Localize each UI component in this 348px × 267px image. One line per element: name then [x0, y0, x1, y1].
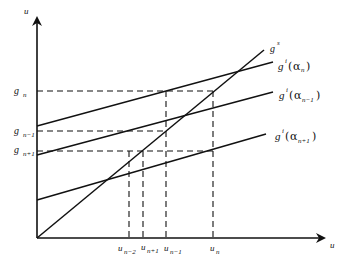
svg-text:n: n — [301, 66, 305, 74]
svg-text:u: u — [141, 242, 146, 252]
label-gs: g s — [270, 39, 280, 54]
svg-text:n−1: n−1 — [23, 131, 35, 139]
svg-text:α: α — [294, 89, 302, 102]
svg-text:n: n — [216, 248, 220, 256]
curve-gi-alpha-n-1 — [37, 92, 273, 155]
svg-text:n−1: n−1 — [170, 248, 182, 256]
svg-text:n: n — [23, 91, 27, 99]
diagram: u u g n g n−1 g n+1 u n−2 u n+1 u — [0, 0, 348, 267]
svg-text:i: i — [285, 57, 287, 65]
x-axis-label: u — [330, 240, 335, 250]
label-gi-alpha-n+1: g i ( α n+1 ) — [275, 127, 316, 145]
svg-text:i: i — [282, 127, 284, 135]
svg-text:(: ( — [285, 130, 289, 143]
x-tick-un-2: u n−2 — [118, 243, 136, 256]
svg-text:g: g — [275, 130, 281, 142]
svg-text:u: u — [164, 243, 169, 253]
svg-text:n−2: n−2 — [124, 248, 136, 256]
svg-text:s: s — [277, 39, 280, 47]
svg-text:u: u — [118, 243, 123, 253]
label-gi-alpha-n-1: g i ( α n−1 ) — [279, 86, 320, 104]
x-tick-un-1: u n−1 — [164, 243, 182, 256]
svg-text:α: α — [290, 130, 298, 143]
y-axis-label: u — [24, 6, 29, 16]
curve-gi-alpha-n — [37, 62, 273, 126]
svg-text:): ) — [316, 89, 320, 102]
svg-text:α: α — [293, 60, 301, 73]
svg-text:): ) — [306, 60, 310, 73]
svg-text:g: g — [270, 43, 275, 54]
svg-text:(: ( — [288, 60, 292, 73]
svg-text:g: g — [14, 144, 19, 155]
curves — [37, 50, 273, 238]
svg-text:i: i — [286, 86, 288, 94]
svg-text:n+1: n+1 — [298, 137, 310, 145]
y-tick-gn+1: g n+1 — [14, 144, 35, 158]
svg-text:): ) — [312, 130, 316, 143]
y-tick-gn: g n — [14, 85, 27, 99]
label-gi-alpha-n: g i ( α n ) — [278, 57, 310, 74]
svg-text:n+1: n+1 — [23, 150, 35, 158]
svg-text:g: g — [278, 60, 284, 72]
svg-text:g: g — [14, 125, 19, 136]
svg-text:g: g — [279, 89, 285, 101]
svg-text:g: g — [14, 85, 19, 96]
svg-text:(: ( — [289, 89, 293, 102]
x-tick-un+1: u n+1 — [141, 242, 159, 255]
y-tick-gn-1: g n−1 — [14, 125, 35, 139]
svg-text:n−1: n−1 — [302, 96, 314, 104]
svg-text:u: u — [210, 243, 215, 253]
x-tick-un: u n — [210, 243, 220, 256]
svg-text:n+1: n+1 — [147, 247, 159, 255]
